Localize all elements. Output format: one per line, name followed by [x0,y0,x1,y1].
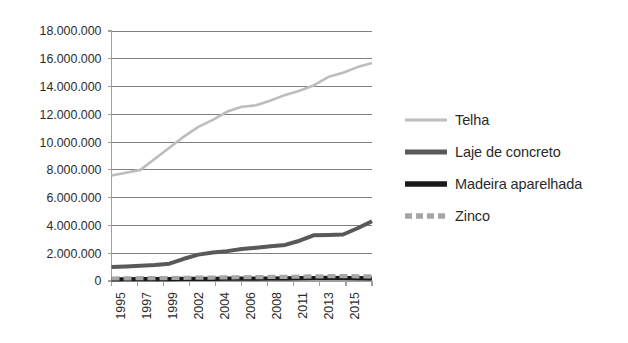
x-tick-label: 1997 [140,292,154,320]
x-tick-label: 1999 [166,292,180,320]
plot-svg: 02.000.0004.000.0006.000.0008.000.00010.… [0,0,400,343]
x-tick-label: 2002 [192,292,206,320]
x-tick-label: 2015 [348,292,362,320]
data-series-group [112,63,373,279]
y-tick-label: 6.000.000 [46,191,101,205]
legend-swatch-laje-de-concreto-icon [404,145,448,159]
legend-item-telha: Telha [404,104,628,136]
y-tick-label: 8.000.000 [46,163,101,177]
legend-swatch-madeira-aparelhada-icon [404,177,448,191]
legend-swatch-zinco-icon [404,209,448,223]
x-tick-label: 2008 [270,292,284,320]
series-line-laje-de-concreto [112,221,373,267]
chart-legend: Telha Laje de concreto Madeira aparelhad… [404,104,628,234]
y-tick-label: 16.000.000 [39,52,101,66]
x-tick-label: 2013 [322,292,336,320]
x-tick-label: 2011 [296,292,310,319]
x-tick-marks-group [112,281,373,286]
x-tick-label: 2004 [218,292,232,320]
legend-swatch-telha-icon [404,113,448,127]
y-tick-label: 10.000.000 [39,136,101,150]
y-tick-labels-group: 02.000.0004.000.0006.000.0008.000.00010.… [39,24,101,288]
y-tick-label: 4.000.000 [46,219,101,233]
x-tick-labels-group: 1995199719992002200420062008201120132015 [114,292,362,320]
legend-item-madeira-aparelhada: Madeira aparelhada [404,168,628,200]
plot-area-container: 02.000.0004.000.0006.000.0008.000.00010.… [0,0,400,343]
y-tick-label: 2.000.000 [46,247,101,261]
x-tick-label: 2006 [244,292,258,320]
legend-label-laje-de-concreto: Laje de concreto [455,144,561,160]
line-chart: 02.000.0004.000.0006.000.0008.000.00010.… [0,0,628,343]
gridlines-group [112,31,373,281]
y-tick-label: 12.000.000 [39,108,101,122]
legend-item-laje-de-concreto: Laje de concreto [404,136,628,168]
y-tick-label: 14.000.000 [39,80,101,94]
legend-label-madeira-aparelhada: Madeira aparelhada [455,176,582,192]
legend-label-zinco: Zinco [455,208,490,224]
series-line-telha [112,63,373,176]
legend-item-zinco: Zinco [404,200,628,232]
x-tick-label: 1995 [114,292,128,320]
legend-label-telha: Telha [455,112,489,128]
y-tick-label: 18.000.000 [39,24,101,38]
y-tick-label: 0 [95,274,102,288]
